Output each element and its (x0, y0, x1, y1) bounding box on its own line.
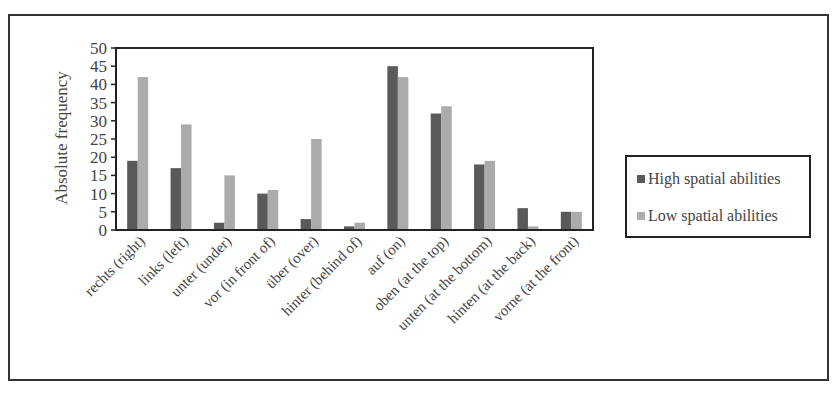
x-tick-label: oben (at the top) (370, 233, 452, 315)
bar-low (311, 139, 322, 230)
y-tick-label: 0 (99, 221, 108, 240)
y-axis-title: Absolute frequency (52, 71, 71, 205)
bar-low (398, 77, 409, 230)
bar-high (127, 161, 138, 230)
bar-high (214, 223, 225, 230)
bars (127, 66, 582, 230)
legend-item-high: High spatial abilities (637, 170, 780, 188)
y-tick-label: 5 (99, 203, 108, 222)
x-axis-labels: rechts (right)links (left)unter (under)v… (81, 233, 582, 334)
legend-swatch-high (637, 175, 645, 183)
legend-item-low: Low spatial abilities (637, 207, 778, 225)
y-tick-label: 30 (90, 112, 107, 131)
y-axis-ticks: 05101520253035404550 (90, 39, 116, 240)
bar-high (257, 194, 268, 230)
y-tick-label: 35 (90, 94, 107, 113)
bar-low (441, 106, 452, 230)
bar-high (474, 164, 485, 230)
bar-low (355, 223, 366, 230)
bar-low (181, 124, 192, 230)
bar-low (224, 175, 235, 230)
legend-label-low: Low spatial abilities (648, 207, 778, 225)
y-tick-label: 15 (90, 166, 107, 185)
y-tick-label: 25 (90, 130, 107, 149)
legend-label-high: High spatial abilities (648, 170, 780, 188)
bar-low (268, 190, 279, 230)
x-tick-label: rechts (right) (81, 233, 148, 300)
y-axis-label: Absolute frequency (52, 71, 71, 205)
legend-swatch-low (637, 212, 645, 220)
y-tick-label: 20 (90, 148, 107, 167)
legend: High spatial abilities Low spatial abili… (625, 155, 811, 238)
bar-high (301, 219, 312, 230)
bar-high (561, 212, 572, 230)
x-tick-label: hinter (behind of) (278, 233, 365, 320)
bar-low (138, 77, 149, 230)
bar-low (485, 161, 496, 230)
y-tick-label: 45 (90, 57, 107, 76)
y-tick-label: 10 (90, 185, 107, 204)
x-tick-label: vorne (at the front) (490, 233, 582, 325)
bar-low (571, 212, 582, 230)
y-tick-label: 50 (90, 39, 107, 58)
bar-high (387, 66, 398, 230)
bar-high (431, 114, 442, 230)
y-tick-label: 40 (90, 75, 107, 94)
bar-high (517, 208, 528, 230)
bar-high (171, 168, 182, 230)
